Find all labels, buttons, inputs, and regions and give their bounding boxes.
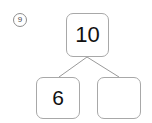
problem-number-label: 9 (18, 16, 22, 24)
problem-number-badge: 9 (13, 13, 27, 27)
number-bond-total-value: 10 (75, 24, 99, 46)
number-bond-total-box[interactable]: 10 (66, 13, 109, 57)
number-bond-part-right-box[interactable] (97, 77, 141, 119)
connector-line-right (87, 57, 119, 77)
number-bond-worksheet: 9 10 6 (0, 0, 152, 123)
number-bond-part-left-value: 6 (52, 87, 64, 108)
number-bond-part-left-box[interactable]: 6 (36, 77, 80, 119)
connector-line-left (59, 57, 87, 77)
